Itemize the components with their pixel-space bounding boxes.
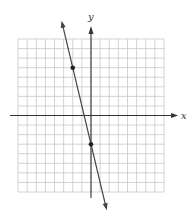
line-arrow-up-icon bbox=[61, 21, 66, 28]
coordinate-graph: y x bbox=[0, 0, 194, 219]
x-axis-label: x bbox=[181, 110, 187, 121]
x-axis-arrow-icon bbox=[171, 113, 178, 118]
data-point bbox=[70, 65, 75, 70]
data-point bbox=[89, 142, 94, 147]
line-arrow-down-icon bbox=[103, 203, 108, 210]
y-axis-arrow-icon bbox=[89, 26, 94, 34]
axes bbox=[10, 26, 178, 198]
y-axis-label: y bbox=[87, 11, 94, 22]
